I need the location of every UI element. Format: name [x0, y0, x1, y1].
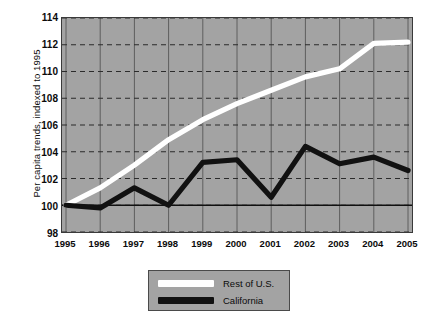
y-tick-104: 104 [22, 147, 58, 158]
y-tick-98: 98 [22, 228, 58, 239]
y-tick-108: 108 [22, 93, 58, 104]
legend-item-california: California [149, 291, 289, 309]
legend-label-rest-of-us: Rest of U.S. [223, 278, 274, 289]
chart-legend: Rest of U.S. California [148, 270, 290, 311]
plot-area [61, 17, 413, 233]
plot-svg [62, 18, 412, 232]
y-tick-102: 102 [22, 174, 58, 185]
legend-swatch-california [158, 297, 214, 304]
y-tick-106: 106 [22, 120, 58, 131]
y-axis-tick-labels: 98100102104106108110112114 [22, 17, 58, 233]
legend-swatch-rest-of-us [158, 280, 214, 287]
chart-figure: Per capita trends, indexed to 1995 98100… [0, 0, 430, 321]
y-tick-112: 112 [22, 39, 58, 50]
legend-label-california: California [223, 295, 263, 306]
y-tick-114: 114 [22, 12, 58, 23]
legend-item-rest-of-us: Rest of U.S. [149, 274, 289, 292]
y-tick-100: 100 [22, 201, 58, 212]
x-axis-tick-labels: 1995199619971998199920002001200220032004… [61, 238, 413, 254]
y-tick-110: 110 [22, 66, 58, 77]
x-tick-2005: 2005 [387, 238, 427, 249]
